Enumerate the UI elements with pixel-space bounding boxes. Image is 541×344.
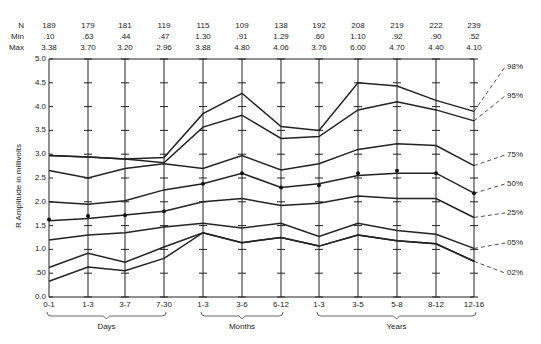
- header-cell-n: 219: [377, 21, 417, 30]
- header-cell-max: 4.70: [377, 43, 417, 52]
- series-line-98pct: [49, 83, 474, 159]
- x-tick-label: 7-30: [144, 300, 184, 309]
- header-cell-max: 3.88: [183, 43, 223, 52]
- header-cell-n: 181: [105, 21, 145, 30]
- group-brace: [47, 312, 166, 319]
- x-tick-label: 6-12: [261, 300, 301, 309]
- percentile-leader: [474, 184, 505, 193]
- y-tick-label: 1.5: [20, 221, 46, 230]
- header-cell-max: 4.10: [454, 43, 494, 52]
- percentile-leader: [474, 67, 505, 111]
- series-line-02pct: [49, 233, 474, 268]
- y-tick-label: 2.0: [20, 197, 46, 206]
- x-tick-label: 3-5: [338, 300, 378, 309]
- header-cell-max: 3.38: [29, 43, 69, 52]
- header-cell-max: 2.96: [144, 43, 184, 52]
- mean-point: [240, 171, 244, 175]
- percentile-label-95pct: 95%: [507, 91, 523, 100]
- y-tick-label: 3.0: [20, 149, 46, 158]
- header-cell-max: 3.20: [105, 43, 145, 52]
- header-cell-min: .91: [222, 32, 262, 41]
- mean-point: [356, 171, 360, 175]
- group-brace: [201, 312, 283, 319]
- header-cell-min: 1.10: [338, 32, 378, 41]
- y-tick-label: 2.5: [20, 173, 46, 182]
- x-tick-label: 5-8: [377, 300, 417, 309]
- y-tick-label: .50: [20, 268, 46, 277]
- percentile-label-75pct: 75%: [507, 150, 523, 159]
- header-cell-n: 179: [68, 21, 108, 30]
- series-line-25pct: [49, 196, 474, 221]
- x-tick-label: 1-3: [183, 300, 223, 309]
- header-cell-min: .44: [105, 32, 145, 41]
- x-tick-label: 12-16: [454, 300, 494, 309]
- header-cell-min: 1.30: [183, 32, 223, 41]
- header-cell-n: 119: [144, 21, 184, 30]
- header-cell-min: .63: [68, 32, 108, 41]
- header-cell-n: 109: [222, 21, 262, 30]
- mean-point: [279, 186, 283, 190]
- header-cell-n: 222: [416, 21, 456, 30]
- mean-point: [162, 209, 166, 213]
- header-cell-min: 1.29: [261, 32, 301, 41]
- percentile-leader: [474, 261, 505, 273]
- header-cell-max: 3.70: [68, 43, 108, 52]
- header-cell-n: 239: [454, 21, 494, 30]
- percentile-leader: [474, 213, 505, 218]
- percentile-label-50pct: 50%: [507, 179, 523, 188]
- mean-point: [47, 217, 51, 221]
- header-cell-max: 4.80: [222, 43, 262, 52]
- series-line-95pct: [49, 102, 474, 163]
- mean-point: [434, 171, 438, 175]
- mean-point: [201, 182, 205, 186]
- x-tick-label: 3-7: [105, 300, 145, 309]
- group-label-years: Years: [367, 322, 427, 331]
- header-cell-n: 189: [29, 21, 69, 30]
- x-tick-label: 8-12: [416, 300, 456, 309]
- percentile-leader: [474, 96, 505, 121]
- y-tick-label: 4.0: [20, 102, 46, 111]
- header-row-label-min: Min: [0, 32, 24, 41]
- header-cell-n: 208: [338, 21, 378, 30]
- y-tick-label: 5.0: [20, 54, 46, 63]
- group-brace: [317, 312, 476, 319]
- header-cell-n: 115: [183, 21, 223, 30]
- header-cell-max: 6.00: [338, 43, 378, 52]
- header-cell-min: .92: [377, 32, 417, 41]
- y-tick-label: 1.0: [20, 244, 46, 253]
- mean-point: [123, 213, 127, 217]
- percentile-label-05pct: 05%: [507, 238, 523, 247]
- y-axis-label: R Amplitude in millivolts: [14, 144, 23, 228]
- header-row-label-max: Max: [0, 43, 24, 52]
- header-cell-min: .52: [454, 32, 494, 41]
- x-tick-label: 0-1: [29, 300, 69, 309]
- y-tick-label: 3.5: [20, 125, 46, 134]
- header-cell-min: .90: [416, 32, 456, 41]
- mean-point: [317, 183, 321, 187]
- header-cell-n: 192: [299, 21, 339, 30]
- header-cell-n: 138: [261, 21, 301, 30]
- header-cell-max: 3.76: [299, 43, 339, 52]
- header-cell-min: .60: [299, 32, 339, 41]
- y-tick-label: 4.5: [20, 78, 46, 87]
- header-cell-max: 4.40: [416, 43, 456, 52]
- header-cell-min: .47: [144, 32, 184, 41]
- header-cell-min: .10: [29, 32, 69, 41]
- group-label-months: Months: [212, 322, 272, 331]
- percentile-leader: [474, 243, 505, 248]
- group-label-days: Days: [77, 322, 137, 331]
- series-line-50pct: [49, 173, 474, 204]
- mean-point: [395, 169, 399, 173]
- series-line-lowest: [49, 233, 474, 282]
- percentile-leader: [474, 155, 505, 166]
- x-tick-label: 3-6: [222, 300, 262, 309]
- x-tick-label: 1-3: [299, 300, 339, 309]
- header-row-label-n: N: [0, 21, 24, 30]
- series-line-05pct: [49, 223, 474, 248]
- mean-point: [86, 214, 90, 218]
- header-cell-max: 4.06: [261, 43, 301, 52]
- percentile-label-25pct: 25%: [507, 208, 523, 217]
- x-tick-label: 1-3: [68, 300, 108, 309]
- percentile-label-98pct: 98%: [507, 62, 523, 71]
- percentile-label-02pct: 02%: [507, 268, 523, 277]
